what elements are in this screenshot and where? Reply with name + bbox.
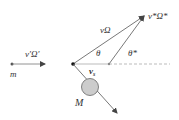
mass-M-label: M: [74, 97, 84, 108]
mass-m-label: m: [10, 69, 17, 79]
theta-star-label: θ*: [128, 48, 137, 58]
cm-dot: [108, 63, 110, 65]
incoming-velocity-label: v′Ω′: [25, 49, 40, 59]
recoil-velocity-label: vs: [89, 66, 96, 77]
theta-label: θ: [96, 48, 101, 58]
scattering-diagram: v′Ω′ m vΩ v*Ω* θ θ* vs M: [0, 0, 179, 120]
mass-M-circle: [82, 79, 99, 96]
cm-velocity-arrow: [109, 16, 144, 64]
outgoing-velocity-label: vΩ: [100, 25, 111, 35]
cm-velocity-label: v*Ω*: [148, 11, 168, 21]
